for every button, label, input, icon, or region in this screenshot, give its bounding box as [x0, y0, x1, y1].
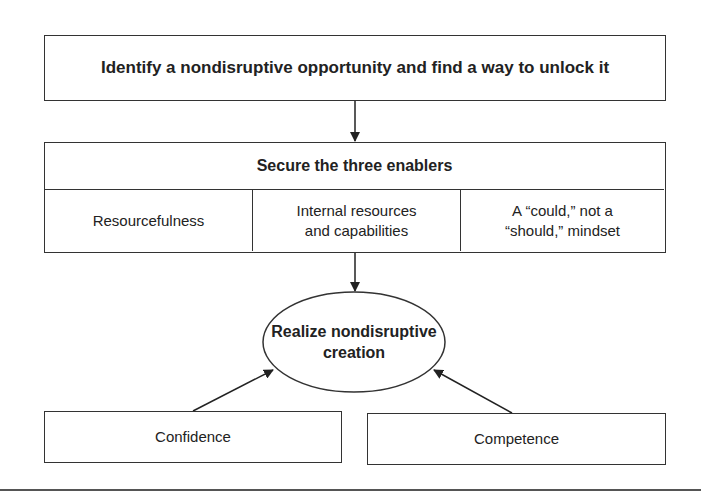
support-competence-label: Competence [474, 429, 559, 449]
outcome-label: Realize nondisruptive creation [263, 292, 445, 392]
support-confidence-label: Confidence [155, 427, 231, 447]
support-competence-box: Competence [367, 413, 666, 465]
arrow-confidence-to-outcome [193, 370, 273, 411]
bottom-rule [0, 489, 701, 491]
arrow-competence-to-outcome [434, 370, 512, 413]
support-confidence-box: Confidence [44, 411, 342, 463]
